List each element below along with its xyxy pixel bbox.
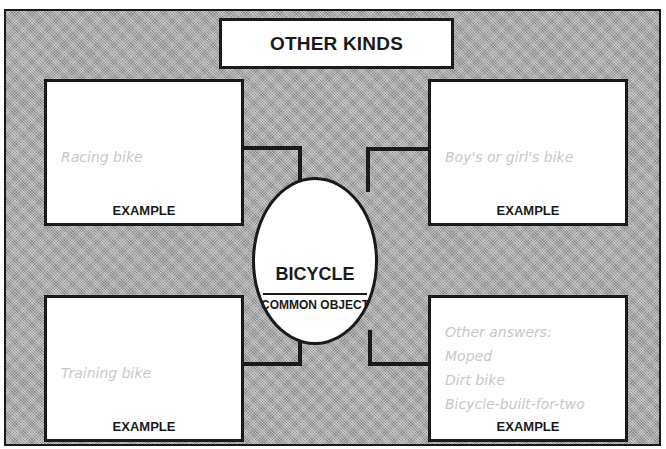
answer-list: Other answers: Moped Dirt bike Bicycle-b…: [445, 320, 585, 416]
title-box: OTHER KINDS: [219, 18, 454, 69]
example-label: EXAMPLE: [47, 203, 241, 218]
center-subtitle: COMMON OBJECT: [255, 298, 375, 312]
example-box-bottom-left: Training bike EXAMPLE: [44, 295, 244, 442]
page-title: OTHER KINDS: [270, 33, 403, 55]
connector-bottom-right: [370, 330, 429, 364]
example-box-top-right: Boy's or girl's bike EXAMPLE: [428, 79, 628, 226]
answer-text: Dirt bike: [445, 368, 585, 392]
example-label: EXAMPLE: [47, 419, 241, 434]
answer-text: Training bike: [61, 365, 151, 381]
example-label: EXAMPLE: [431, 419, 625, 434]
example-box-bottom-right: Other answers: Moped Dirt bike Bicycle-b…: [428, 295, 628, 442]
example-label: EXAMPLE: [431, 203, 625, 218]
answer-text: Bicycle-built-for-two: [445, 392, 585, 416]
center-circle: BICYCLE COMMON OBJECT: [252, 177, 378, 345]
example-box-top-left: Racing bike EXAMPLE: [44, 79, 244, 226]
center-divider: [263, 293, 367, 295]
answer-text: Boy's or girl's bike: [445, 149, 573, 165]
answer-text: Racing bike: [61, 149, 143, 165]
connector-top-right: [368, 149, 429, 192]
answer-text: Moped: [445, 344, 585, 368]
answer-text: Other answers:: [445, 320, 585, 344]
center-title: BICYCLE: [255, 264, 375, 285]
